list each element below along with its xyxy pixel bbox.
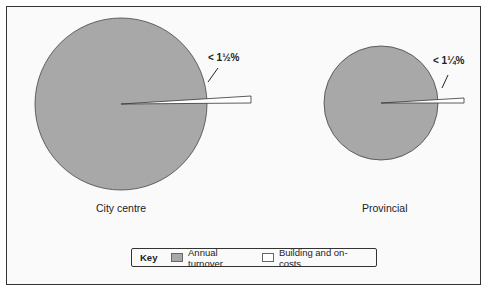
legend: Key Annual turnover Building and on-cost… (131, 248, 377, 267)
pie-city-centre (35, 18, 251, 190)
legend-label: Building and on-costs (279, 247, 366, 269)
legend-title: Key (140, 252, 157, 263)
annotation-pointer-city (208, 68, 218, 82)
annotation-provincial: < 1¼% (433, 55, 464, 66)
swatch-white-icon (262, 253, 274, 262)
legend-item-building-costs: Building and on-costs (262, 247, 366, 269)
annotation-city: < 1½% (208, 52, 239, 63)
legend-item-annual-turnover: Annual turnover (171, 247, 252, 269)
label-provincial: Provincial (362, 202, 408, 214)
annotation-pointer-provincial (442, 75, 448, 88)
legend-label: Annual turnover (188, 247, 252, 269)
swatch-grey-icon (171, 253, 183, 262)
label-city-centre: City centre (96, 202, 146, 214)
